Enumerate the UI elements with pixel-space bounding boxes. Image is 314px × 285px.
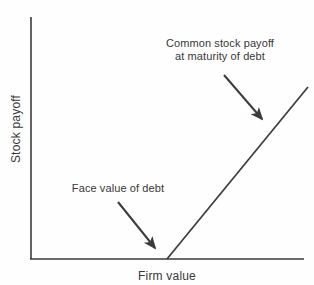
stock-payoff-line <box>167 87 308 259</box>
y-axis-label: Stock payoff <box>9 62 25 196</box>
common-stock-annotation-arrow <box>224 75 262 119</box>
common-stock-annotation: Common stock payoff at maturity of debt <box>150 37 290 63</box>
x-axis-label: Firm value <box>97 269 237 283</box>
stock-payoff-diagram: Common stock payoff at maturity of debt … <box>0 0 314 285</box>
face-value-annotation-arrow <box>118 202 155 248</box>
face-value-annotation: Face value of debt <box>48 182 188 195</box>
common-stock-annotation-line2: at maturity of debt <box>150 50 290 63</box>
common-stock-annotation-line1: Common stock payoff <box>150 37 290 50</box>
